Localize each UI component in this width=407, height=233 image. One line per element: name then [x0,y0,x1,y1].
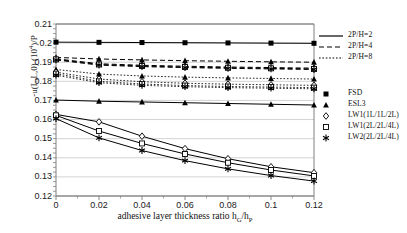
legend-label: FSD [348,89,362,97]
legend-marker-diamond-open [320,110,332,121]
x-tick-0-12: 0.12 [305,201,323,210]
legend-key [320,99,332,110]
legend-key [320,132,332,143]
legend-key [318,52,344,63]
series-0 [54,40,317,46]
legend-key [320,88,332,99]
legend-marker-triangle-filled [320,99,332,110]
legend-label: ESL3 [348,100,366,108]
legend-key [318,41,344,52]
chart-figure: 0.210.20.190.180.170.160.150.140.130.12 … [0,0,407,233]
x-axis-title: adhesive layer thickness ratio hG/hP [56,211,314,223]
x-tick-0: 0 [53,201,58,210]
legend-line-dotted [318,52,344,63]
legend-key [320,121,332,132]
legend-marker-square-open [320,121,332,132]
legend-key [320,110,332,121]
axis-frame [53,24,314,200]
x-tick-0-06: 0.06 [176,201,194,210]
series-9 [53,97,317,108]
legend-label: LW2(2L/2L/4L) [348,133,399,141]
legend-label: 2P/H=8 [348,53,372,61]
data-series-group [53,40,317,185]
legend-label: 2P/H=4 [348,42,372,50]
x-axis-title-main: adhesive layer thickness ratio h [117,211,236,221]
x-tick-0-04: 0.04 [133,201,151,210]
x-tick-0-08: 0.08 [219,201,237,210]
legend-marker-square-filled [320,88,332,99]
legend-label: LW1(2L/2L/4L) [348,122,399,130]
legend-marker-asterisk [320,132,332,143]
plot-canvas [0,0,407,233]
x-tick-0-1: 0.1 [265,201,278,210]
legend-line-solid [318,30,344,41]
legend-label: 2P/H=2 [348,31,372,39]
legend-label: LW1(1L/1L/2L) [348,111,399,119]
series-10 [53,111,316,176]
legend-line-dashed [318,41,344,52]
x-tick-0-02: 0.02 [90,201,108,210]
legend-key [318,30,344,41]
x-axis-title-sub-p: P [249,216,253,223]
x-axis-title-mid: /h [241,211,248,221]
